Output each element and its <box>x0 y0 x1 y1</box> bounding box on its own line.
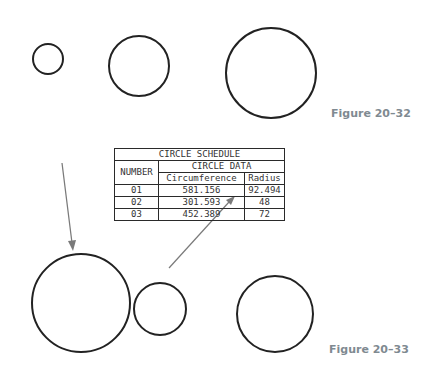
arrow-to-large-circle <box>62 163 76 251</box>
row-circumference: 301.593 <box>159 197 245 209</box>
table-row: 02 301.593 48 <box>115 197 285 209</box>
number-header: NUMBER <box>115 161 159 185</box>
circle-03-bottom <box>237 276 313 352</box>
figure-caption-top: Figure 20–32 <box>331 107 411 120</box>
row-radius: 72 <box>245 209 285 221</box>
table-row: 01 581.156 92.494 <box>115 185 285 197</box>
table-row: 03 452.389 72 <box>115 209 285 221</box>
circle-02-bottom <box>134 283 186 335</box>
row-radius: 92.494 <box>245 185 285 197</box>
row-circumference: 452.389 <box>159 209 245 221</box>
circle-small-top <box>33 44 63 74</box>
arrowhead-icon <box>68 240 76 251</box>
radius-header: Radius <box>245 173 285 185</box>
circle-data-header: CIRCLE DATA <box>159 161 285 173</box>
circle-01-bottom <box>32 254 130 352</box>
table-group-header-row: NUMBER CIRCLE DATA <box>115 161 285 173</box>
circle-medium-top <box>109 36 169 96</box>
circumference-header: Circumference <box>159 173 245 185</box>
circle-large-top <box>226 28 316 118</box>
row-number: 02 <box>115 197 159 209</box>
table-title-row: CIRCLE SCHEDULE <box>115 149 285 161</box>
row-number: 01 <box>115 185 159 197</box>
circle-schedule-table: CIRCLE SCHEDULE NUMBER CIRCLE DATA Circu… <box>114 148 285 221</box>
row-radius: 48 <box>245 197 285 209</box>
row-circumference: 581.156 <box>159 185 245 197</box>
figure-caption-bottom: Figure 20–33 <box>329 343 409 356</box>
table-title: CIRCLE SCHEDULE <box>115 149 285 161</box>
row-number: 03 <box>115 209 159 221</box>
